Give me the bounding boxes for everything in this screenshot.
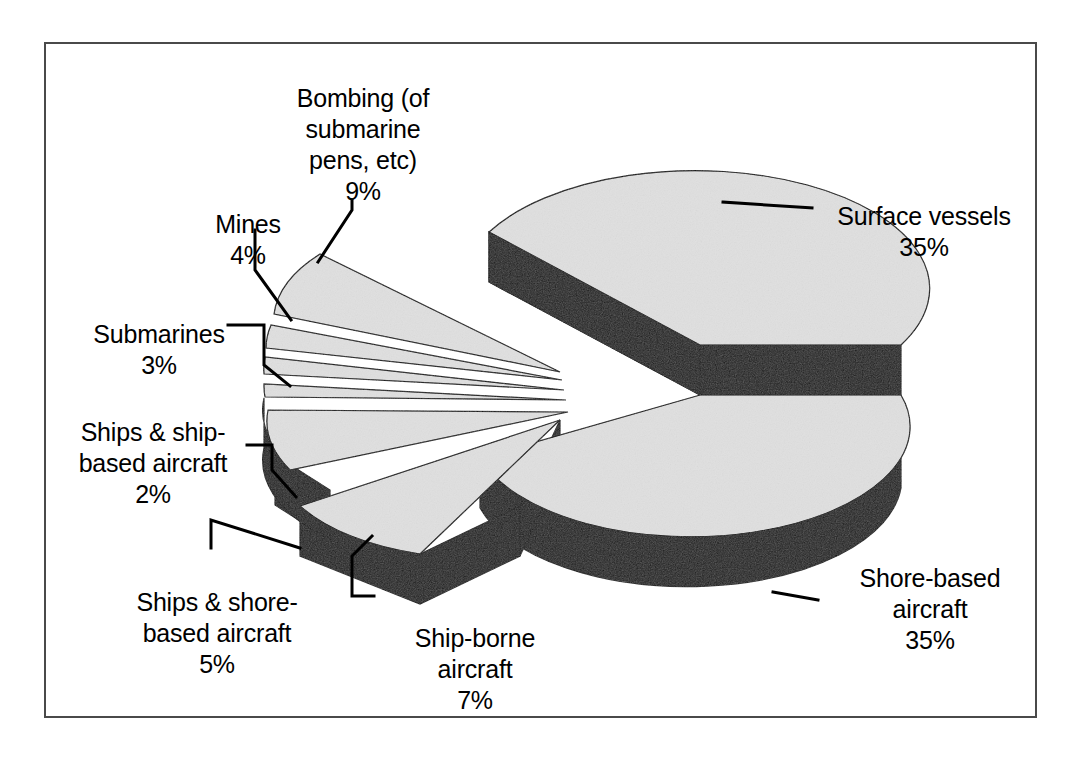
slice-label-ships-shore-based-aircraft-name: Ships & shore- based aircraft: [136, 588, 297, 647]
slice-label-surface-vessels-percent: 35%: [818, 232, 1030, 263]
slice-label-ships-ship-based-aircraft-name: Ships & ship- based aircraft: [79, 418, 228, 477]
slice-label-shore-based-aircraft-name: Shore-based aircraft: [860, 564, 1001, 623]
slice-label-ships-ship-based-aircraft: Ships & ship- based aircraft 2%: [40, 386, 266, 541]
slice-label-ships-shore-based-aircraft-percent: 5%: [86, 649, 348, 680]
slice-label-submarines-percent: 3%: [52, 350, 266, 381]
slice-label-mines-percent: 4%: [182, 240, 314, 271]
slice-label-surface-vessels: Surface vessels 35%: [818, 170, 1030, 294]
slice-label-shore-based-aircraft: Shore-based aircraft 35%: [830, 532, 1030, 687]
slice-label-shore-based-aircraft-percent: 35%: [830, 625, 1030, 656]
slice-label-submarines-name: Submarines: [93, 320, 224, 348]
slice-label-ship-borne-aircraft: Ship-borne aircraft 7%: [380, 592, 570, 747]
slice-label-mines: Mines 4%: [182, 178, 314, 302]
slice-label-surface-vessels-name: Surface vessels: [837, 202, 1010, 230]
chart-plot-area: Bombing (of submarine pens, etc) 9% Mine…: [0, 0, 1072, 768]
slice-label-ship-borne-aircraft-name: Ship-borne aircraft: [415, 624, 535, 683]
slice-label-mines-name: Mines: [215, 210, 281, 238]
leader-line-shore-based-aircraft: [773, 592, 818, 600]
slice-label-ships-shore-based-aircraft: Ships & shore- based aircraft 5%: [86, 556, 348, 711]
slice-label-ship-borne-aircraft-percent: 7%: [380, 685, 570, 716]
slice-label-ships-ship-based-aircraft-percent: 2%: [40, 479, 266, 510]
slice-label-bombing-name: Bombing (of submarine pens, etc): [297, 84, 430, 174]
pie-chart-figure: Bombing (of submarine pens, etc) 9% Mine…: [0, 0, 1072, 768]
